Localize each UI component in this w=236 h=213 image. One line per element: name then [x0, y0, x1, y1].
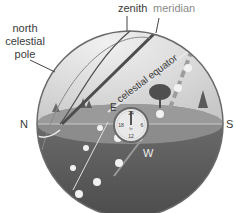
clock-dial: 24 18 6 12 hr	[114, 108, 148, 142]
north-label: N	[20, 118, 28, 130]
meridian-leader-line	[156, 18, 159, 33]
clock-label-18: 18	[118, 122, 124, 128]
north-celestial-pole-label: pole	[15, 48, 36, 60]
east-label: E	[110, 102, 117, 113]
clock-label-6: 6	[141, 122, 144, 128]
north-celestial-pole-label: north	[12, 22, 37, 34]
north-celestial-pole-label: celestial	[5, 35, 45, 47]
meridian-label: meridian	[153, 2, 195, 14]
south-label: S	[226, 118, 233, 130]
zenith-label: zenith	[118, 2, 147, 14]
pole-leader-line	[30, 60, 55, 72]
clock-label-12: 12	[128, 133, 134, 139]
west-label: W	[143, 147, 154, 159]
celestial-sphere-diagram: 24 18 6 12 hr north celestial pole zenit…	[0, 0, 236, 213]
clock-label-24: 24	[128, 110, 134, 116]
